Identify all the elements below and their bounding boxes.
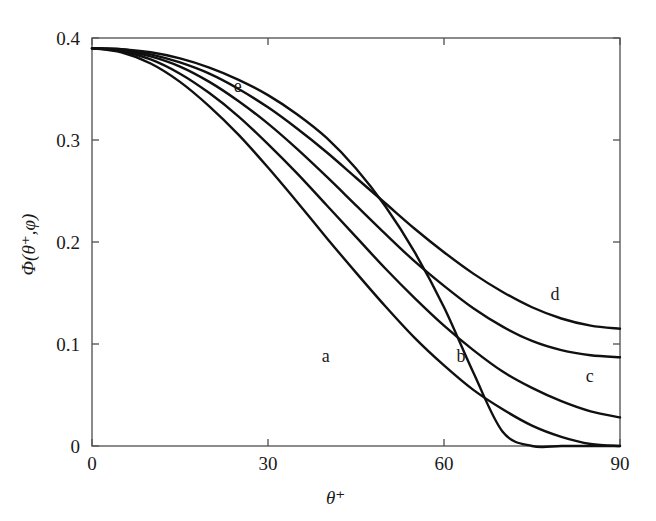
curve-label-c: c (586, 367, 594, 385)
curve-label-e: e (234, 77, 242, 95)
x-tick-label-30: 30 (238, 454, 298, 473)
y-tick-label-0.3: 0.3 (20, 131, 80, 150)
y-tick-label-0.4: 0.4 (20, 29, 80, 48)
x-tick-label-90: 90 (590, 454, 650, 473)
plot-canvas (0, 0, 656, 521)
x-axis-title: θ⁺ (326, 488, 345, 507)
curve-label-b: b (457, 347, 466, 365)
figure-container: 0.4 0.3 0.2 0.1 0 0 30 60 90 θ⁺ Φ(θ⁺,φ) … (0, 0, 656, 521)
curve-label-a: a (322, 347, 330, 365)
plot-frame (92, 38, 620, 446)
curve-label-d: d (550, 285, 559, 303)
y-axis-title: Φ(θ⁺,φ) (19, 175, 38, 315)
x-tick-label-60: 60 (414, 454, 474, 473)
x-tick-label-0: 0 (62, 454, 122, 473)
y-tick-label-0.1: 0.1 (20, 335, 80, 354)
